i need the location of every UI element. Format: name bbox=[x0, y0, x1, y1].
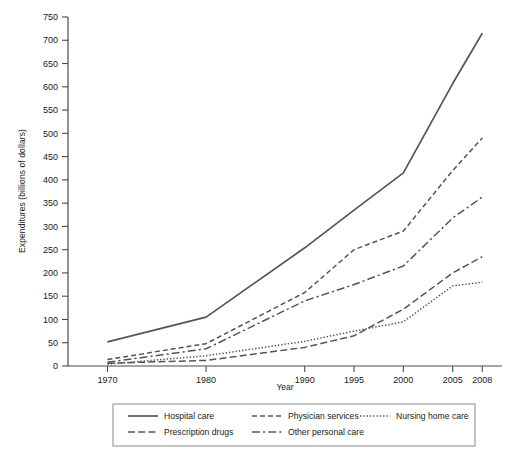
legend-item-hospital-care[interactable]: Hospital care bbox=[128, 411, 214, 421]
y-tick-label: 200 bbox=[43, 268, 58, 278]
y-tick-label: 350 bbox=[43, 198, 58, 208]
y-tick-label: 700 bbox=[43, 35, 58, 45]
y-tick-label: 750 bbox=[43, 12, 58, 22]
series-line-other-personal-care bbox=[107, 197, 482, 362]
y-tick-label: 550 bbox=[43, 105, 58, 115]
x-tick-label: 1970 bbox=[97, 375, 117, 385]
series-line-prescription-drugs bbox=[107, 257, 482, 364]
legend-item-other-personal-care-label: Other personal care bbox=[288, 427, 364, 437]
series-line-hospital-care bbox=[107, 33, 482, 342]
y-tick-label: 300 bbox=[43, 222, 58, 232]
axes bbox=[68, 17, 502, 366]
y-tick-label: 250 bbox=[43, 245, 58, 255]
y-tick-label: 600 bbox=[43, 82, 58, 92]
legend: Hospital carePhysician servicesNursing h… bbox=[113, 404, 475, 446]
x-tick-label: 1995 bbox=[344, 375, 364, 385]
y-tick-label: 50 bbox=[48, 338, 58, 348]
x-tick-label: 2005 bbox=[443, 375, 463, 385]
x-tick-label: 2008 bbox=[472, 375, 492, 385]
y-tick-label: 100 bbox=[43, 315, 58, 325]
legend-item-prescription-drugs-label: Prescription drugs bbox=[164, 427, 233, 437]
y-tick-label: 650 bbox=[43, 59, 58, 69]
y-tick-label: 0 bbox=[53, 361, 58, 371]
legend-item-prescription-drugs[interactable]: Prescription drugs bbox=[128, 427, 233, 437]
y-tick-label: 150 bbox=[43, 291, 58, 301]
legend-item-physician-services[interactable]: Physician services bbox=[252, 411, 359, 421]
x-axis-ticks: 1970198019901995200020052008 bbox=[97, 366, 492, 385]
x-tick-label: 1980 bbox=[196, 375, 216, 385]
series-line-nursing-home-care bbox=[107, 282, 482, 364]
line-chart-svg: 0501001502002503003504004505005506006507… bbox=[0, 0, 524, 450]
legend-item-nursing-home-care[interactable]: Nursing home care bbox=[360, 411, 469, 421]
legend-entries: Hospital carePhysician servicesNursing h… bbox=[128, 411, 469, 437]
legend-item-other-personal-care[interactable]: Other personal care bbox=[252, 427, 364, 437]
legend-item-physician-services-label: Physician services bbox=[288, 411, 359, 421]
y-tick-label: 400 bbox=[43, 175, 58, 185]
x-axis-title: Year bbox=[276, 382, 293, 392]
y-tick-label: 500 bbox=[43, 129, 58, 139]
y-tick-label: 450 bbox=[43, 152, 58, 162]
data-series-group bbox=[107, 33, 482, 364]
y-axis-ticks: 0501001502002503003504004505005506006507… bbox=[43, 12, 68, 371]
x-tick-label: 2000 bbox=[393, 375, 413, 385]
legend-item-nursing-home-care-label: Nursing home care bbox=[396, 411, 469, 421]
x-tick-label: 1990 bbox=[295, 375, 315, 385]
chart-figure: Expenditures (billions of dollars) 05010… bbox=[0, 0, 524, 450]
legend-item-hospital-care-label: Hospital care bbox=[164, 411, 214, 421]
series-line-physician-services bbox=[107, 138, 482, 359]
